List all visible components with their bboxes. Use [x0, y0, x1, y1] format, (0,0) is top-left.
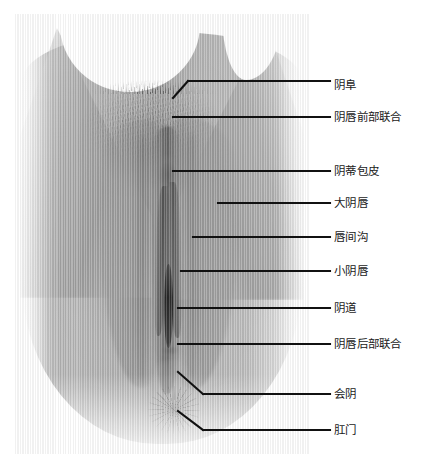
label-vagina: 阴道 — [334, 303, 357, 315]
label-clitoral-hood: 阴蒂包皮 — [334, 166, 379, 178]
label-posterior-labial-commissure: 阴唇后部联合 — [334, 339, 402, 351]
pubic-hair-contour — [90, 72, 216, 94]
label-mons-pubis: 阴阜 — [334, 80, 357, 92]
label-interlabial-sulcus: 唇间沟 — [334, 232, 368, 244]
bottom-edge-fade — [14, 374, 310, 454]
anatomy-photograph — [14, 14, 310, 454]
label-perineum: 会阴 — [334, 389, 357, 401]
left-interlabial-sulcus — [134, 134, 150, 384]
anatomical-figure: 阴阜 阴唇前部联合 阴蒂包皮 大阴唇 唇间沟 小阴唇 阴道 阴唇后部联合 会阴 … — [0, 0, 421, 460]
label-anterior-labial-commissure: 阴唇前部联合 — [334, 112, 402, 124]
right-interlabial-sulcus — [182, 132, 200, 384]
label-labia-majora: 大阴唇 — [334, 198, 368, 210]
label-anus: 肛门 — [334, 425, 357, 437]
label-labia-minora: 小阴唇 — [334, 266, 368, 278]
vaginal-introitus-shape — [164, 264, 173, 348]
